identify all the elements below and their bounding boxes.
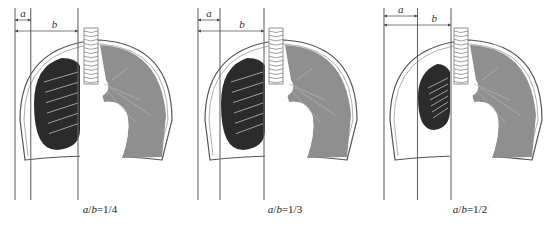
caption-panel-2: a/b=1/3	[225, 203, 345, 215]
dimension-b-label: b	[432, 12, 438, 24]
dimension-b-label: b	[239, 18, 245, 30]
trachea	[454, 28, 468, 84]
panel-2: ab	[198, 7, 357, 200]
caption-panel-1: a/b=1/4	[40, 203, 160, 215]
trachea	[84, 28, 98, 84]
dimension-a-label: a	[398, 3, 404, 15]
trachea	[269, 28, 283, 84]
caption-panel-3: a/b=1/2	[410, 203, 530, 215]
figure-canvas: ababab	[0, 0, 560, 227]
panel-1: ab	[15, 7, 172, 200]
dimension-a-label: a	[206, 7, 212, 19]
dimension-b-label: b	[52, 18, 58, 30]
panel-3: ab	[384, 3, 542, 200]
dimension-a-label: a	[20, 7, 26, 19]
